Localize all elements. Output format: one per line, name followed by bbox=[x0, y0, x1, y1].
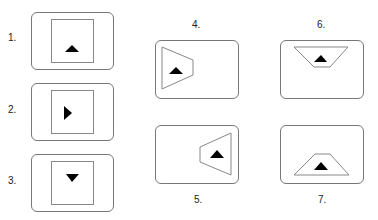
figure-shapes bbox=[0, 0, 378, 220]
triangle-up-icon-1 bbox=[65, 45, 79, 52]
triangle-up-icon-6 bbox=[314, 55, 327, 62]
trapezoid-left bbox=[162, 47, 193, 89]
inner-square-2 bbox=[52, 91, 94, 134]
triangle-up-icon-5 bbox=[210, 150, 224, 158]
triangle-up-icon-7 bbox=[314, 162, 328, 170]
inner-square-3 bbox=[52, 162, 94, 205]
triangle-right-icon-2 bbox=[64, 106, 72, 120]
triangle-down-icon-3 bbox=[66, 174, 79, 182]
inner-square-1 bbox=[52, 20, 94, 63]
triangle-up-icon-4 bbox=[169, 67, 183, 74]
